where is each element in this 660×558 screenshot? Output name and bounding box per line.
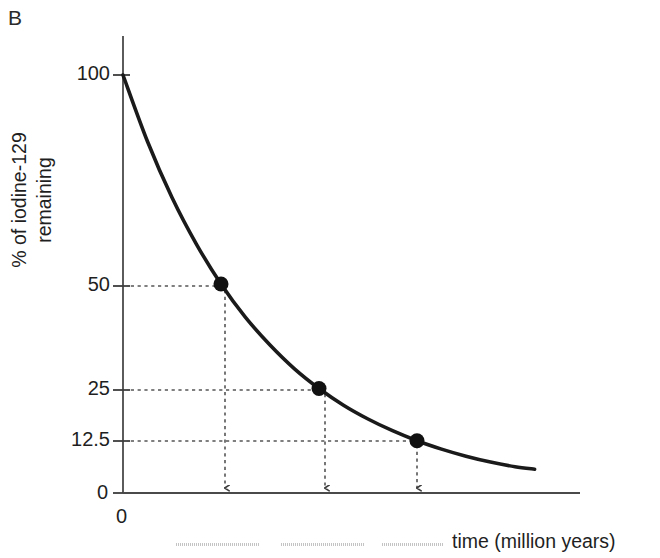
decay-curve	[123, 75, 535, 469]
plot-area	[0, 0, 660, 558]
data-point-half-life-3	[410, 433, 425, 448]
data-point-half-life-1	[214, 277, 229, 292]
data-point-half-life-2	[312, 381, 327, 396]
figure-panel-b: B % of iodine-129 remaining 100 50 25 12…	[0, 0, 660, 558]
